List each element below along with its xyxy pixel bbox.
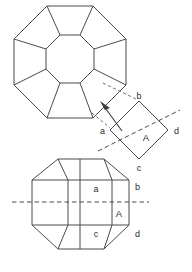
top-view-spoke-4 bbox=[94, 69, 126, 85]
detail-callout-group bbox=[92, 83, 136, 131]
side-view-label-b: b bbox=[135, 182, 140, 192]
detail-label-facet-A: A bbox=[143, 132, 150, 143]
top-view-spoke-2 bbox=[80, 6, 93, 35]
detail-view-group: b d a c A bbox=[98, 91, 180, 173]
detail-label-b: b bbox=[136, 91, 141, 101]
top-view-spoke-5 bbox=[80, 83, 93, 118]
detail-label-c: c bbox=[137, 163, 142, 173]
top-view-spoke-6 bbox=[47, 83, 60, 118]
facet-diagram-svg: b d a c A a b c d A bbox=[0, 0, 192, 272]
side-view-group: a b c d A bbox=[12, 159, 149, 249]
side-view-pavilion-edge-left bbox=[58, 225, 68, 249]
side-view-label-d: d bbox=[135, 229, 140, 239]
side-view-label-c: c bbox=[94, 229, 99, 239]
top-view-spoke-7 bbox=[14, 69, 46, 85]
side-view-label-a: a bbox=[93, 184, 98, 194]
top-view-outer-octagon bbox=[14, 6, 126, 118]
detail-label-a: a bbox=[100, 126, 105, 136]
diagram-canvas: b d a c A a b c d A bbox=[0, 0, 192, 272]
leader-line-upper bbox=[103, 83, 136, 99]
top-view-spoke-3 bbox=[94, 39, 126, 49]
top-view-group bbox=[14, 6, 126, 118]
magnify-arrow-head bbox=[100, 101, 110, 116]
detail-label-d: d bbox=[174, 126, 179, 136]
side-view-label-facet-A: A bbox=[116, 208, 123, 219]
top-view-table-octagon bbox=[46, 35, 94, 83]
side-view-crown-edge-left bbox=[58, 159, 68, 180]
top-view-spoke-8 bbox=[14, 39, 46, 49]
top-view-spoke-1 bbox=[47, 6, 60, 35]
